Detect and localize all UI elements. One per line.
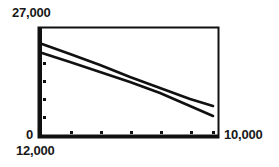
plot-area bbox=[0, 0, 279, 167]
series-upper-line bbox=[42, 44, 213, 106]
chart-figure: 27,000 0 12,000 10,000 bbox=[0, 0, 279, 167]
series-lower-line bbox=[42, 53, 213, 116]
x-axis-ticks bbox=[70, 131, 215, 134]
y-axis-ticks bbox=[43, 62, 46, 119]
